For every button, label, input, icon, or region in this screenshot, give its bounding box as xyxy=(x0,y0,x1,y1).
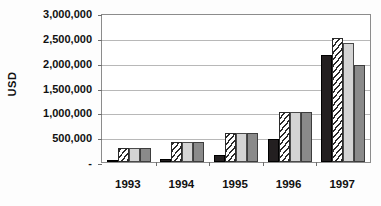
y-axis-tick xyxy=(98,40,102,41)
bar xyxy=(268,139,279,162)
y-axis-tick-labels: 3,000,0002,500,0002,000,0001,500,0001,00… xyxy=(18,0,92,206)
y-axis-tick xyxy=(98,114,102,115)
bar xyxy=(343,43,354,162)
x-axis-tick xyxy=(209,162,210,166)
bar xyxy=(247,133,258,162)
y-axis-tick-label: 1,500,000 xyxy=(18,83,92,94)
x-axis-tick-label: 1993 xyxy=(115,178,141,190)
bar-group xyxy=(263,15,317,162)
y-axis-tick xyxy=(98,164,102,165)
gridline xyxy=(102,40,370,41)
y-axis-tick-label: 500,000 xyxy=(18,133,92,144)
x-axis-tick xyxy=(156,162,157,166)
plot-area xyxy=(101,14,371,163)
bar xyxy=(332,38,343,162)
bar xyxy=(301,112,312,162)
bar xyxy=(279,112,290,162)
bar-group xyxy=(316,15,370,162)
y-axis-title: USD xyxy=(6,54,18,114)
x-axis-tick xyxy=(316,162,317,166)
x-axis-tick-label: 1997 xyxy=(329,178,355,190)
y-axis-tick-label: 3,000,000 xyxy=(18,9,92,20)
bar-chart: USD 3,000,0002,500,0002,000,0001,500,000… xyxy=(0,0,381,206)
y-axis-tick xyxy=(98,90,102,91)
y-axis-tick-label: - xyxy=(18,158,92,169)
bar xyxy=(214,155,225,162)
y-axis-tick-label: 1,000,000 xyxy=(18,108,92,119)
x-axis-tick-label: 1995 xyxy=(222,178,248,190)
bar xyxy=(236,133,247,162)
y-axis-tick xyxy=(98,139,102,140)
bar xyxy=(182,142,193,162)
bar xyxy=(354,65,365,162)
x-axis-tick xyxy=(263,162,264,166)
x-axis-tick-labels: 19931994199519961997 xyxy=(101,168,371,190)
bar xyxy=(160,159,171,162)
bar xyxy=(129,148,140,162)
bar xyxy=(140,148,151,162)
x-axis-tick-label: 1994 xyxy=(169,178,195,190)
x-axis-tick-label: 1996 xyxy=(276,178,302,190)
y-axis-tick xyxy=(98,15,102,16)
y-axis-tick xyxy=(98,65,102,66)
bar xyxy=(225,133,236,162)
y-axis-tick-label: 2,000,000 xyxy=(18,58,92,69)
bar xyxy=(118,148,129,162)
bar xyxy=(171,142,182,162)
y-axis-tick-label: 2,500,000 xyxy=(18,33,92,44)
bar xyxy=(107,160,118,162)
bar xyxy=(290,112,301,162)
bar xyxy=(321,55,332,162)
bar xyxy=(193,142,204,162)
